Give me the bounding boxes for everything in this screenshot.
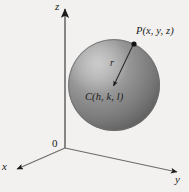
sphere-coordinate-figure: z y x 0 P(x, y, z) C(h, k, l) r bbox=[0, 0, 189, 192]
x-axis bbox=[17, 148, 65, 169]
z-axis-label: z bbox=[55, 1, 59, 12]
y-axis-label: y bbox=[175, 174, 180, 185]
y-axis bbox=[65, 148, 177, 172]
point-p-label: P(x, y, z) bbox=[136, 26, 174, 37]
point-p-marker bbox=[131, 41, 136, 46]
center-c-label: C(h, k, l) bbox=[85, 92, 123, 103]
x-axis-label: x bbox=[2, 161, 7, 172]
radius-label: r bbox=[110, 58, 114, 68]
origin-label: 0 bbox=[52, 138, 58, 149]
